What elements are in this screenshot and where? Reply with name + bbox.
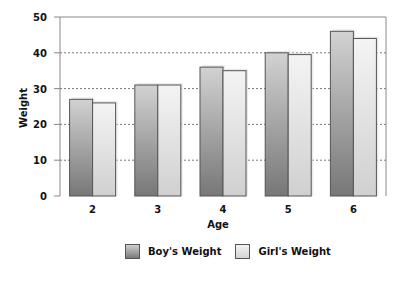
girl-bar-age-5 xyxy=(288,55,311,196)
y-tick-label: 20 xyxy=(33,119,47,130)
x-tick-label: 4 xyxy=(220,204,227,215)
y-tick-label: 30 xyxy=(33,84,47,95)
boy-bar-age-5 xyxy=(265,53,288,196)
legend-item-boy: Boy's Weight xyxy=(125,244,221,259)
bar-chart: 0102030405023456 Weight Age xyxy=(0,0,395,240)
legend-label-boy: Boy's Weight xyxy=(148,246,221,257)
legend-label-girl: Girl's Weight xyxy=(258,246,330,257)
boy-swatch-icon xyxy=(125,244,140,259)
y-axis-label: Weight xyxy=(18,88,29,128)
x-axis-label: Age xyxy=(207,219,229,230)
y-tick-label: 50 xyxy=(33,12,47,23)
legend-item-girl: Girl's Weight xyxy=(235,244,330,259)
legend: Boy's Weight Girl's Weight xyxy=(125,244,337,259)
boy-bar-age-2 xyxy=(70,99,93,196)
y-tick-label: 10 xyxy=(33,155,47,166)
x-tick-label: 5 xyxy=(285,204,292,215)
x-tick-label: 6 xyxy=(350,204,357,215)
girl-bar-age-4 xyxy=(223,71,246,196)
boy-bar-age-3 xyxy=(135,85,158,196)
girl-bar-age-3 xyxy=(158,85,181,196)
girl-bar-age-2 xyxy=(93,103,116,196)
boy-bar-age-6 xyxy=(330,31,353,196)
y-tick-label: 0 xyxy=(40,191,47,202)
y-tick-label: 40 xyxy=(33,48,47,59)
x-tick-label: 2 xyxy=(89,204,96,215)
x-tick-label: 3 xyxy=(154,204,161,215)
girl-bar-age-6 xyxy=(353,38,376,196)
girl-swatch-icon xyxy=(235,244,250,259)
boy-bar-age-4 xyxy=(200,67,223,196)
bars xyxy=(70,29,379,196)
